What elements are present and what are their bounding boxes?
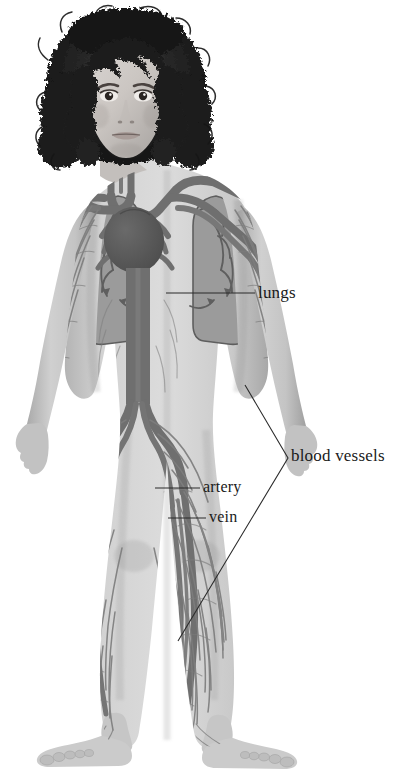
label-vein: vein: [209, 508, 237, 526]
label-blood-vessels: blood vessels: [291, 446, 385, 466]
circulatory-system-figure: [0, 0, 398, 776]
label-lungs: lungs: [258, 283, 296, 303]
label-artery: artery: [203, 478, 242, 496]
